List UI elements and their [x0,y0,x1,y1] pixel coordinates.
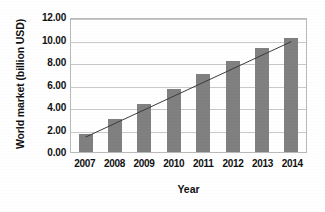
x-axis-title: Year [70,183,307,195]
x-axis-tick-labels: 20072008200920102011201220132014 [70,158,307,174]
x-axis-tick-label: 2012 [218,158,248,174]
bar-chart: World market (billion USD) 0.002.004.006… [0,0,325,212]
y-axis-tick-labels: 0.002.004.006.008.0010.0012.00 [26,12,66,153]
x-axis-tick-label: 2010 [159,158,189,174]
x-axis-tick-label: 2007 [70,158,100,174]
y-axis-tick-label: 0.00 [26,148,66,158]
x-axis-tick-label: 2013 [248,158,278,174]
x-axis-tick-label: 2011 [189,158,219,174]
trendline [71,19,306,152]
y-axis-tick-label: 10.00 [26,36,66,46]
x-axis-tick-label: 2009 [129,158,159,174]
x-axis-tick-label: 2014 [277,158,307,174]
y-axis-title: World market (billion USD) [14,9,26,159]
y-axis-tick-label: 2.00 [26,126,66,136]
y-axis-tick-label: 6.00 [26,81,66,91]
y-axis-tick-label: 8.00 [26,58,66,68]
y-axis-tick-label: 4.00 [26,103,66,113]
plot-area [70,18,307,153]
y-axis-tick-label: 12.00 [26,13,66,23]
x-axis-tick-label: 2008 [100,158,130,174]
